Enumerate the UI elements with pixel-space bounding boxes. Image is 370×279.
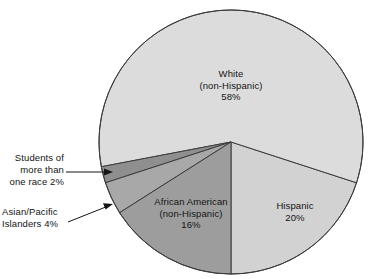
slice-label-african-american-line1: African American — [136, 196, 246, 208]
leader-arrow-more-than-one-race — [66, 169, 113, 176]
slice-label-hispanic-line1: Hispanic — [256, 200, 334, 212]
leader-arrow-asian-pacific — [68, 203, 113, 222]
pie-chart-figure: White (non-Hispanic) 58% African America… — [0, 0, 370, 279]
slice-label-african-american-value: 16% — [136, 219, 246, 231]
slice-label-hispanic-value: 20% — [256, 212, 334, 224]
slice-label-white: White (non-Hispanic) 58% — [172, 68, 290, 103]
callout-label-more-than-one-race: Students of more than one race 2% — [2, 152, 64, 188]
callout-label-asian-pacific: Asian/Pacific Islanders 4% — [2, 206, 68, 230]
callout-asian-pacific-line1: Asian/Pacific — [2, 206, 68, 218]
slice-label-african-american-line2: (non-Hispanic) — [136, 208, 246, 220]
callout-more-than-one-race-line3: one race 2% — [2, 176, 64, 188]
slice-label-hispanic: Hispanic 20% — [256, 200, 334, 223]
slice-label-african-american: African American (non-Hispanic) 16% — [136, 196, 246, 231]
pie-chart-graphic — [0, 0, 370, 279]
slice-label-white-value: 58% — [172, 91, 290, 103]
slice-label-white-line1: White — [172, 68, 290, 80]
callout-more-than-one-race-line2: more than — [2, 164, 64, 176]
callout-asian-pacific-line2: Islanders 4% — [2, 218, 68, 230]
slice-label-white-line2: (non-Hispanic) — [172, 80, 290, 92]
callout-more-than-one-race-line1: Students of — [2, 152, 64, 164]
